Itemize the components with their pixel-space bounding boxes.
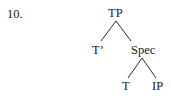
edge-spec-ip bbox=[142, 58, 156, 78]
node-tp: TP bbox=[108, 7, 123, 19]
edge-tp-tbar bbox=[101, 21, 116, 41]
node-spec: Spec bbox=[131, 44, 155, 56]
node-t: T bbox=[122, 80, 130, 92]
node-ip: IP bbox=[152, 80, 163, 92]
edge-tp-spec bbox=[116, 21, 131, 41]
edge-spec-t bbox=[128, 58, 142, 78]
node-t-bar: T’ bbox=[92, 44, 104, 56]
